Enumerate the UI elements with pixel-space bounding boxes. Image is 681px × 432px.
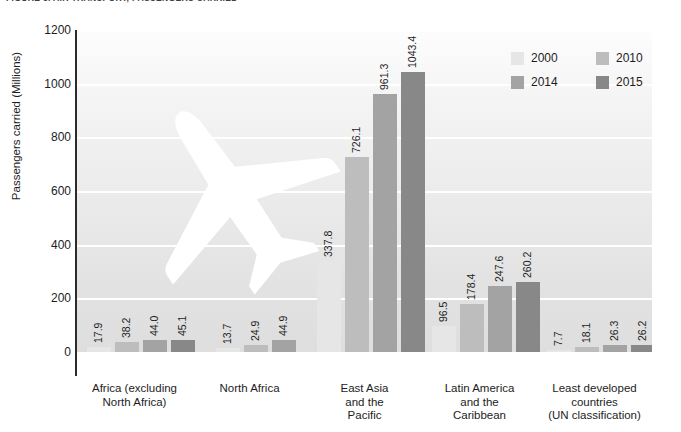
y-tick-label: 200	[17, 291, 71, 305]
x-axis-category-label: Africa (excludingNorth Africa)	[77, 382, 192, 409]
x-axis-label-line: and the	[422, 396, 537, 410]
bar[interactable]: 24.9	[244, 345, 268, 352]
bar-value-label: 961.3	[378, 64, 390, 90]
x-axis-label-line: Latin America	[422, 382, 537, 396]
x-axis-label-line: (UN classification)	[537, 409, 652, 423]
bar[interactable]: 260.2	[516, 282, 540, 352]
y-tick-label: 800	[17, 130, 71, 144]
legend-swatch-icon	[511, 76, 524, 89]
y-axis-ticks: 020040060080010001200	[14, 30, 71, 352]
bar-value-label: 17.9	[92, 323, 104, 343]
bar[interactable]: 44.9	[272, 340, 296, 352]
x-axis-label-line: and the	[307, 396, 422, 410]
x-axis-category-label: East Asiaand thePacific	[307, 382, 422, 423]
bar-value-label: 13.7	[221, 324, 233, 344]
baseline-strip	[77, 352, 652, 376]
bar-value-label: 24.9	[249, 321, 261, 341]
bar-value-label: 260.2	[521, 252, 533, 278]
x-axis-category-label: North Africa	[192, 382, 307, 396]
x-axis-label-line: countries	[537, 396, 652, 410]
y-tick-label: 1200	[17, 23, 71, 37]
chart-container: Passengers carried (Millions) 0200400600…	[14, 26, 667, 425]
bar-value-label: 178.4	[465, 274, 477, 300]
bar[interactable]: 337.8	[317, 261, 341, 352]
bar[interactable]: 178.4	[460, 304, 484, 352]
legend: 2000201020142015	[511, 51, 661, 89]
bar-value-label: 45.1	[176, 315, 188, 335]
x-axis-label-line: North Africa	[192, 382, 307, 396]
x-axis-category-label: Latin Americaand theCaribbean	[422, 382, 537, 423]
x-axis-label-line: North Africa)	[77, 396, 192, 410]
bar-value-label: 247.6	[493, 255, 505, 281]
bar-value-label: 1043.4	[406, 36, 418, 68]
bar-value-label: 44.0	[148, 316, 160, 336]
legend-item-2000[interactable]: 2000	[511, 51, 576, 65]
bar-value-label: 26.2	[636, 321, 648, 341]
bar-group: 17.938.244.045.1	[77, 30, 192, 352]
y-tick-label: 1000	[17, 77, 71, 91]
x-axis-label-line: East Asia	[307, 382, 422, 396]
bar[interactable]: 26.2	[631, 345, 653, 352]
x-axis-label-line: Caribbean	[422, 409, 537, 423]
bar-value-label: 7.7	[552, 331, 564, 346]
bar-value-label: 44.9	[277, 316, 289, 336]
bar-value-label: 26.3	[608, 321, 620, 341]
bar-value-label: 38.2	[120, 317, 132, 337]
legend-label: 2010	[616, 51, 643, 65]
legend-item-2015[interactable]: 2015	[596, 75, 661, 89]
bar[interactable]: 38.2	[115, 342, 139, 352]
bar-value-label: 18.1	[580, 323, 592, 343]
x-axis-label-line: Least developed	[537, 382, 652, 396]
x-axis-labels: Africa (excludingNorth Africa)North Afri…	[77, 382, 652, 432]
legend-label: 2014	[531, 75, 558, 89]
bar-value-label: 726.1	[350, 127, 362, 153]
legend-swatch-icon	[596, 52, 609, 65]
legend-item-2010[interactable]: 2010	[596, 51, 661, 65]
bar[interactable]: 26.3	[603, 345, 627, 352]
y-tick-label: 600	[17, 184, 71, 198]
bar[interactable]: 1043.4	[401, 72, 425, 352]
bar-value-label: 96.5	[437, 302, 449, 322]
legend-swatch-icon	[596, 76, 609, 89]
bar[interactable]: 44.0	[143, 340, 167, 352]
legend-label: 2000	[531, 51, 558, 65]
x-axis-label-line: Africa (excluding	[77, 382, 192, 396]
legend-item-2014[interactable]: 2014	[511, 75, 576, 89]
figure-title: FIGURE 3. AIR TRANSPORT, PASSENGERS CARR…	[6, 0, 238, 3]
legend-swatch-icon	[511, 52, 524, 65]
bar-group: 337.8726.1961.31043.4	[307, 30, 422, 352]
bar[interactable]: 961.3	[373, 94, 397, 352]
bar-value-label: 337.8	[322, 231, 334, 257]
legend-label: 2015	[616, 75, 643, 89]
y-tick-label: 0	[17, 345, 71, 359]
y-tick-label: 400	[17, 238, 71, 252]
x-axis-label-line: Pacific	[307, 409, 422, 423]
bar[interactable]: 726.1	[345, 157, 369, 352]
bar[interactable]: 247.6	[488, 286, 512, 352]
x-axis-category-label: Least developedcountries(UN classificati…	[537, 382, 652, 423]
bar[interactable]: 45.1	[171, 340, 195, 352]
bar[interactable]: 96.5	[432, 326, 456, 352]
bar-group: 13.724.944.9	[192, 30, 307, 352]
